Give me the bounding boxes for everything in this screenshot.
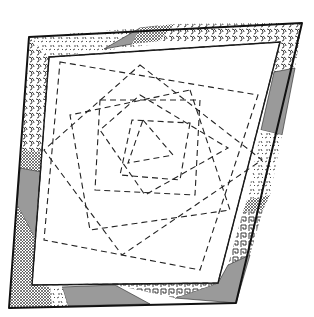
quilt-diagram — [0, 0, 314, 317]
quilt-svg — [0, 0, 314, 317]
